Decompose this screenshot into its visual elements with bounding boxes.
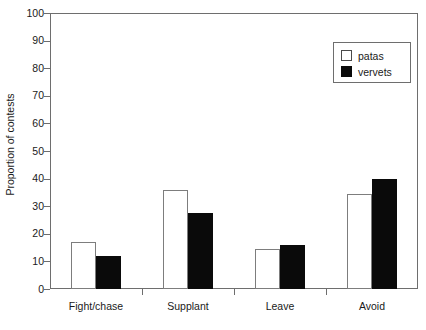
bar-vervets-leave	[280, 245, 305, 289]
y-tick-mark	[44, 289, 50, 290]
legend-label-vervets: vervets	[358, 66, 392, 78]
y-tick-mark	[44, 179, 50, 180]
y-tick-label: 100	[14, 8, 44, 19]
y-tick-mark	[44, 96, 50, 97]
y-tick-label: 20	[14, 228, 44, 239]
x-tick-mark	[234, 289, 235, 295]
bar-vervets-supplant	[188, 213, 213, 289]
legend-swatch-vervets-icon	[341, 66, 352, 77]
bar-patas-fight-chase	[71, 242, 96, 289]
y-tick-label: 30	[14, 201, 44, 212]
y-tick-mark	[44, 41, 50, 42]
y-tick-label: 90	[14, 35, 44, 46]
y-tick-label: 80	[14, 63, 44, 74]
bar-patas-leave	[255, 249, 280, 289]
legend-label-patas: patas	[358, 50, 384, 62]
bar-patas-supplant	[163, 190, 188, 289]
bar-patas-avoid	[347, 194, 372, 289]
y-tick-label: 50	[14, 146, 44, 157]
y-tick-mark	[44, 151, 50, 152]
y-tick-label: 60	[14, 118, 44, 129]
y-tick-mark	[44, 261, 50, 262]
legend-item-vervets: vervets	[341, 64, 410, 79]
y-tick-label: 10	[14, 256, 44, 267]
y-tick-label: 40	[14, 173, 44, 184]
y-tick-label: 0	[14, 284, 44, 295]
chart-legend: patas vervets	[333, 42, 411, 83]
bar-chart: Proportion of contests 01020304050607080…	[0, 0, 426, 330]
bar-vervets-avoid	[372, 179, 397, 289]
x-category-label: Supplant	[142, 300, 234, 313]
x-category-label: Avoid	[326, 300, 418, 313]
y-tick-mark	[44, 123, 50, 124]
legend-swatch-patas-icon	[341, 50, 352, 61]
y-tick-label: 70	[14, 90, 44, 101]
bar-vervets-fight-chase	[96, 256, 121, 289]
y-tick-mark	[44, 234, 50, 235]
x-category-label: Leave	[234, 300, 326, 313]
legend-item-patas: patas	[341, 48, 410, 63]
y-tick-mark	[44, 206, 50, 207]
y-tick-mark	[44, 68, 50, 69]
x-category-label: Fight/chase	[50, 300, 142, 313]
x-tick-mark	[326, 289, 327, 295]
x-tick-mark	[142, 289, 143, 295]
y-tick-mark	[44, 13, 50, 14]
